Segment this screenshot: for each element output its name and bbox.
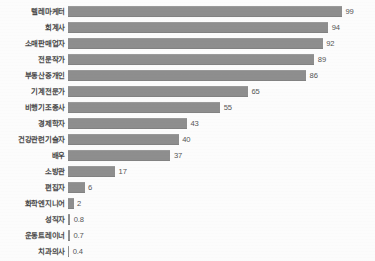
category-label: 회계사 [0, 23, 68, 32]
category-label: 전문작가 [0, 55, 68, 64]
bar-row: 비행기조종사55 [0, 99, 375, 115]
chart-rows: 텔레마케터99회계사94소매판매업자92전문작가89부동산중개인86기계전문가6… [0, 0, 375, 261]
bar-row: 소매판매업자92 [0, 35, 375, 51]
value-label: 17 [115, 167, 127, 176]
bar-track: 89 [68, 51, 375, 67]
value-label: 94 [328, 23, 340, 32]
value-label: 99 [342, 7, 354, 16]
category-label: 건강관련기술자 [0, 135, 68, 144]
category-label: 성직자 [0, 215, 68, 224]
category-label: 경제학자 [0, 119, 68, 128]
category-label: 부동산중개인 [0, 71, 68, 80]
category-label: 편집자 [0, 183, 68, 192]
bar-chart: 텔레마케터99회계사94소매판매업자92전문작가89부동산중개인86기계전문가6… [0, 0, 375, 261]
bar-row: 경제학자43 [0, 115, 375, 131]
value-label: 86 [306, 71, 318, 80]
value-label: 43 [187, 119, 199, 128]
bar-track: 2 [68, 196, 375, 212]
bar-row: 운동트레이너0.7 [0, 228, 375, 244]
bar-row: 소방관17 [0, 163, 375, 179]
category-label: 소방관 [0, 167, 68, 176]
bar-track: 0.8 [68, 212, 375, 228]
bar [68, 54, 314, 65]
bar-track: 99 [68, 3, 375, 19]
bar-track: 92 [68, 35, 375, 51]
value-label: 0.4 [69, 247, 83, 256]
category-label: 비행기조종사 [0, 103, 68, 112]
bar-track: 6 [68, 180, 375, 196]
bar [68, 6, 342, 17]
value-label: 6 [85, 183, 93, 192]
bar-track: 43 [68, 115, 375, 131]
bar-row: 건강관련기술자40 [0, 131, 375, 147]
bar-track: 40 [68, 131, 375, 147]
bar-row: 성직자0.8 [0, 212, 375, 228]
value-label: 89 [314, 55, 326, 64]
bar-track: 0.4 [68, 244, 375, 260]
category-label: 배우 [0, 151, 68, 160]
bar [68, 134, 179, 145]
bar-row: 기계전문가65 [0, 83, 375, 99]
category-label: 운동트레이너 [0, 231, 68, 240]
category-label: 치과의사 [0, 247, 68, 256]
bar [68, 86, 248, 97]
category-label: 텔레마케터 [0, 7, 68, 16]
value-label: 2 [74, 199, 82, 208]
bar-track: 65 [68, 83, 375, 99]
value-label: 92 [323, 39, 335, 48]
bar [68, 70, 306, 81]
value-label: 40 [179, 135, 191, 144]
bar-row: 화학엔지니어2 [0, 196, 375, 212]
bar-row: 텔레마케터99 [0, 3, 375, 19]
bar-track: 86 [68, 67, 375, 83]
bar-row: 회계사94 [0, 19, 375, 35]
value-label: 55 [220, 103, 232, 112]
bar-row: 전문작가89 [0, 51, 375, 67]
category-label: 화학엔지니어 [0, 199, 68, 208]
bar-track: 55 [68, 99, 375, 115]
category-label: 소매판매업자 [0, 39, 68, 48]
bar [68, 38, 323, 49]
value-label: 0.8 [70, 215, 84, 224]
bar-track: 0.7 [68, 228, 375, 244]
bar-track: 94 [68, 19, 375, 35]
bar [68, 22, 328, 33]
bar-row: 배우37 [0, 147, 375, 163]
bar-row: 치과의사0.4 [0, 244, 375, 260]
bar-track: 17 [68, 163, 375, 179]
bar [68, 182, 85, 193]
bar [68, 150, 170, 161]
bar [68, 118, 187, 129]
value-label: 37 [170, 151, 182, 160]
bar [68, 166, 115, 177]
bar-row: 부동산중개인86 [0, 67, 375, 83]
bar-track: 37 [68, 147, 375, 163]
bar [68, 102, 220, 113]
bar-row: 편집자6 [0, 180, 375, 196]
value-label: 0.7 [70, 231, 84, 240]
category-label: 기계전문가 [0, 87, 68, 96]
value-label: 65 [248, 87, 260, 96]
